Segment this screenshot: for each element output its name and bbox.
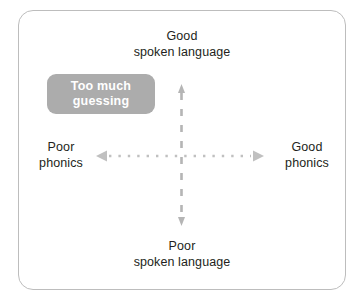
arrow-up-icon xyxy=(178,84,185,93)
axis-label-bottom-line1: Poor xyxy=(0,238,364,254)
axis-label-left: Poor phonics xyxy=(24,139,98,171)
horizontal-axis-arrow xyxy=(96,148,264,164)
axis-label-top-line1: Good xyxy=(0,28,364,44)
axis-label-top-line2: spoken language xyxy=(0,44,364,60)
axis-label-right: Good phonics xyxy=(270,139,344,171)
axis-label-right-line2: phonics xyxy=(270,155,344,171)
axis-label-bottom: Poor spoken language xyxy=(0,238,364,270)
axis-label-left-line1: Poor xyxy=(24,139,98,155)
callout-line1: Too much xyxy=(71,79,131,94)
callout-too-much-guessing: Too much guessing xyxy=(47,74,155,114)
axis-label-left-line2: phonics xyxy=(24,155,98,171)
axis-label-top: Good spoken language xyxy=(0,28,364,60)
arrow-down-icon xyxy=(178,217,185,226)
quadrant-diagram: Good spoken language Poor spoken languag… xyxy=(0,0,364,302)
axis-label-right-line1: Good xyxy=(270,139,344,155)
arrow-right-icon xyxy=(253,151,264,162)
callout-line2: guessing xyxy=(73,94,129,109)
arrow-left-icon xyxy=(96,151,107,162)
axis-label-bottom-line2: spoken language xyxy=(0,254,364,270)
